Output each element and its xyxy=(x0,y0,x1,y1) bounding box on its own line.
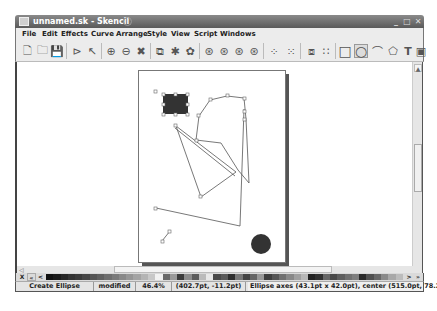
color-swatch[interactable] xyxy=(163,274,170,280)
color-swatch[interactable] xyxy=(323,274,330,280)
menu-script[interactable]: Script xyxy=(194,30,217,39)
freehand-tool-icon[interactable]: ⌒ xyxy=(370,44,384,58)
color-swatch[interactable] xyxy=(257,274,264,280)
color-swatch[interactable] xyxy=(170,274,177,280)
palette-first-button[interactable]: « xyxy=(27,273,36,281)
color-swatch[interactable] xyxy=(286,274,293,280)
to-bottom-icon[interactable]: ⊛ xyxy=(247,44,261,58)
color-swatch[interactable] xyxy=(221,274,228,280)
color-swatch[interactable] xyxy=(133,274,140,280)
rectangle-tool-icon[interactable]: □ xyxy=(338,44,352,58)
save-icon[interactable]: 💾 xyxy=(50,44,64,58)
color-swatch[interactable] xyxy=(141,274,148,280)
color-swatch[interactable] xyxy=(112,274,119,280)
color-swatch[interactable] xyxy=(315,274,322,280)
lower-icon[interactable]: ⊛ xyxy=(217,44,231,58)
color-swatch[interactable] xyxy=(184,274,191,280)
no-color-button[interactable]: X xyxy=(18,273,26,281)
menu-windows[interactable]: Windows xyxy=(220,30,256,39)
color-swatch[interactable] xyxy=(126,274,133,280)
pin-icon[interactable] xyxy=(123,17,132,26)
color-swatch[interactable] xyxy=(337,274,344,280)
vertical-scroll-thumb[interactable] xyxy=(414,144,422,192)
to-top-icon[interactable]: ⊛ xyxy=(232,44,246,58)
menu-file[interactable]: File xyxy=(22,30,36,39)
blend-icon[interactable]: ⧈ xyxy=(304,44,318,58)
scroll-left-icon[interactable]: ◁ xyxy=(19,266,24,273)
color-swatch[interactable] xyxy=(213,274,220,280)
polygon-tool-icon[interactable]: ⬠ xyxy=(386,44,400,58)
color-swatch[interactable] xyxy=(68,274,75,280)
color-swatch[interactable] xyxy=(374,274,381,280)
color-swatch[interactable] xyxy=(301,274,308,280)
color-swatch[interactable] xyxy=(272,274,279,280)
menu-curve[interactable]: Curve xyxy=(91,30,114,39)
color-swatch[interactable] xyxy=(359,274,366,280)
menu-arrange[interactable]: Arrange xyxy=(116,30,148,39)
color-swatch[interactable] xyxy=(243,274,250,280)
horizontal-scrollbar[interactable]: ◁ xyxy=(15,266,412,273)
zoom-out-icon[interactable]: ⊖ xyxy=(119,44,133,58)
document-page[interactable] xyxy=(138,70,286,263)
vertical-scrollbar[interactable]: ▲ xyxy=(412,62,423,266)
color-swatch[interactable] xyxy=(250,274,257,280)
color-swatch[interactable] xyxy=(75,274,82,280)
color-swatch[interactable] xyxy=(148,274,155,280)
color-swatch[interactable] xyxy=(206,274,213,280)
color-swatch[interactable] xyxy=(396,274,403,280)
color-swatch[interactable] xyxy=(388,274,395,280)
color-swatch[interactable] xyxy=(279,274,286,280)
color-swatch[interactable] xyxy=(381,274,388,280)
image-tool-icon[interactable]: ▣ xyxy=(414,44,428,58)
ungroup-icon[interactable]: ✱ xyxy=(168,44,182,58)
color-swatch[interactable] xyxy=(53,274,60,280)
edit-mode-icon[interactable]: ⊳ xyxy=(70,44,84,58)
color-swatch[interactable] xyxy=(61,274,68,280)
palette-prev-button[interactable]: < xyxy=(37,273,44,281)
color-swatch[interactable] xyxy=(104,274,111,280)
text-tool-icon[interactable]: T xyxy=(401,44,415,58)
maximize-button[interactable]: □ xyxy=(402,17,412,26)
open-icon[interactable]: 🗀 xyxy=(35,44,49,58)
color-swatch[interactable] xyxy=(82,274,89,280)
color-swatch[interactable] xyxy=(352,274,359,280)
minimize-button[interactable]: _ xyxy=(391,17,401,26)
color-swatch[interactable] xyxy=(46,274,53,280)
palette-last-button[interactable]: » xyxy=(414,273,422,281)
zoom-in-icon[interactable]: ⊕ xyxy=(104,44,118,58)
color-swatch[interactable] xyxy=(308,274,315,280)
color-swatch[interactable] xyxy=(155,274,162,280)
ellipse-tool-icon[interactable]: ○ xyxy=(354,44,368,58)
grid-icon[interactable]: ∷ xyxy=(319,44,333,58)
color-swatch[interactable] xyxy=(228,274,235,280)
color-swatch[interactable] xyxy=(235,274,242,280)
color-swatch[interactable] xyxy=(330,274,337,280)
group-icon[interactable]: ⧉ xyxy=(153,44,167,58)
horizontal-scroll-thumb[interactable] xyxy=(114,266,332,273)
combine-icon[interactable]: ✿ xyxy=(183,44,197,58)
palette-swatches[interactable] xyxy=(46,274,403,280)
close-button[interactable]: ✕ xyxy=(413,17,423,26)
select-mode-icon[interactable]: ↖ xyxy=(85,44,99,58)
color-swatch[interactable] xyxy=(345,274,352,280)
color-swatch[interactable] xyxy=(119,274,126,280)
menu-effects[interactable]: Effects xyxy=(61,30,88,39)
color-swatch[interactable] xyxy=(264,274,271,280)
menu-view[interactable]: View xyxy=(171,30,190,39)
palette-next-button[interactable]: > xyxy=(405,273,413,281)
menu-style[interactable]: Style xyxy=(147,30,167,39)
snap-object-icon[interactable]: ⁙ xyxy=(284,44,298,58)
color-swatch[interactable] xyxy=(177,274,184,280)
color-swatch[interactable] xyxy=(366,274,373,280)
menu-edit[interactable]: Edit xyxy=(42,30,58,39)
raise-icon[interactable]: ⊛ xyxy=(202,44,216,58)
color-swatch[interactable] xyxy=(294,274,301,280)
color-swatch[interactable] xyxy=(90,274,97,280)
color-swatch[interactable] xyxy=(97,274,104,280)
color-swatch[interactable] xyxy=(199,274,206,280)
fit-icon[interactable]: ✖ xyxy=(134,44,148,58)
new-icon[interactable]: 🗋 xyxy=(20,44,34,58)
color-swatch[interactable] xyxy=(192,274,199,280)
scroll-up-icon[interactable]: ▲ xyxy=(414,64,422,72)
snap-grid-icon[interactable]: ⁘ xyxy=(267,44,281,58)
